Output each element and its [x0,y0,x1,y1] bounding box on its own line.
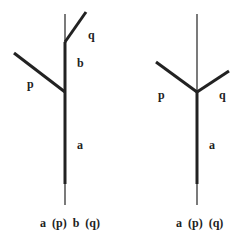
left-branch-p [14,53,65,92]
left-tree [14,12,86,205]
left-branch-q [65,12,86,42]
right-caption: a (p) (q) [176,216,223,231]
left-label-b: b [77,57,84,69]
right-label-a: a [209,139,215,151]
right-label-q: q [219,89,226,101]
diagram-canvas [0,0,244,242]
left-label-q: q [88,29,95,41]
left-label-a: a [77,139,83,151]
left-label-p: p [27,78,34,90]
right-tree [156,14,229,205]
right-label-p: p [158,89,165,101]
left-caption: a (p) b (q) [40,216,100,231]
